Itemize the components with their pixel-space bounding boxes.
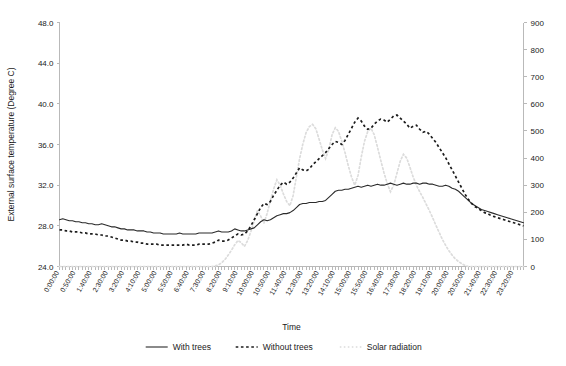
- y-tick-label-right: 300: [531, 181, 545, 190]
- y-tick-label-left: 28.0: [38, 222, 54, 231]
- legend-item: Without trees: [236, 342, 313, 352]
- y-tick-label-right: 0: [531, 263, 536, 272]
- x-tick-label: 8:20:00: [205, 269, 223, 293]
- x-tick-label: 5:50:00: [156, 269, 174, 293]
- legend-group: With treesWithout treesSolar radiation: [146, 342, 422, 352]
- chart-canvas: 24.028.032.036.040.044.048.0010020030040…: [0, 0, 566, 366]
- y-tick-label-right: 500: [531, 127, 545, 136]
- chart-figure: 24.028.032.036.040.044.048.0010020030040…: [0, 0, 566, 366]
- y-tick-label-right: 900: [531, 19, 545, 28]
- x-tick-label: 0:00:00: [43, 269, 61, 293]
- x-tick-label: 6:40:00: [172, 269, 190, 293]
- y-tick-label-right: 200: [531, 208, 545, 217]
- y-tick-label-right: 400: [531, 154, 545, 163]
- legend-item: With trees: [146, 342, 211, 352]
- x-axis-title: Time: [282, 322, 301, 332]
- y-tick-label-left: 44.0: [38, 59, 54, 68]
- y-tick-label-right: 100: [531, 235, 545, 244]
- x-tick-label: 3:20:00: [108, 269, 126, 293]
- x-tick-label: 9:10:00: [221, 269, 239, 293]
- y-axis-title: External surface temperature (Degree C): [6, 67, 16, 221]
- legend-item: Solar radiation: [340, 342, 422, 352]
- legend-label-1: Without trees: [263, 342, 313, 352]
- y-tick-label-left: 48.0: [38, 19, 54, 28]
- x-tick-label: 4:10:00: [124, 269, 142, 293]
- x-tick-label: 7:30:00: [189, 269, 207, 293]
- x-tick-label: 0:50:00: [59, 269, 77, 293]
- y-tick-label-right: 600: [531, 100, 545, 109]
- x-tick-label: 1:40:00: [75, 269, 93, 293]
- series-group: [60, 115, 524, 266]
- series-line-without-trees: [60, 115, 524, 245]
- y-tick-label-left: 36.0: [38, 141, 54, 150]
- y-tick-label-right: 800: [531, 46, 545, 55]
- axes-group: [57, 23, 527, 270]
- y-tick-label-left: 32.0: [38, 181, 54, 190]
- series-line-with-trees: [60, 183, 524, 234]
- y-tick-label-left: 40.0: [38, 100, 54, 109]
- legend-label-0: With trees: [173, 342, 211, 352]
- y-tick-label-right: 700: [531, 73, 545, 82]
- x-tick-label: 2:30:00: [91, 269, 109, 293]
- labels-group: 24.028.032.036.040.044.048.0010020030040…: [6, 19, 544, 333]
- legend-label-2: Solar radiation: [367, 342, 422, 352]
- y-tick-label-left: 24.0: [38, 263, 54, 272]
- series-line-solar-radiation: [60, 124, 524, 266]
- x-tick-label: 5:00:00: [140, 269, 158, 293]
